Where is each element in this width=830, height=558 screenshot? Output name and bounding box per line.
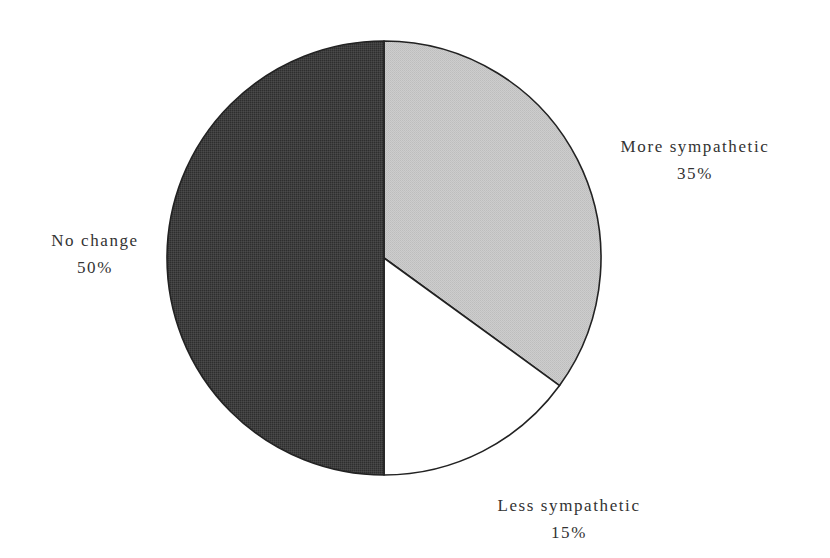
slice-name: More sympathetic [600,133,790,160]
slice-percent: 35% [600,160,790,187]
slice-label-less-sympathetic: Less sympathetic 15% [469,492,669,546]
slice-percent: 15% [469,519,669,546]
slice-name: Less sympathetic [469,492,669,519]
slice-label-more-sympathetic: More sympathetic 35% [600,133,790,187]
pie-slices [167,41,601,475]
slice-label-no-change: No change 50% [15,227,175,281]
pie-slice-no-change [167,41,384,475]
slice-name: No change [15,227,175,254]
slice-percent: 50% [15,254,175,281]
